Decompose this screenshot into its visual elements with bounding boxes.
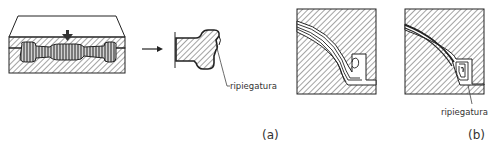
- annotation-ripiegatura-b: ripiegatura: [441, 107, 488, 117]
- caption-b: (b): [468, 128, 485, 142]
- flash-detail: [175, 30, 230, 86]
- right-arrow-icon: [142, 46, 163, 52]
- die-section-before: [297, 9, 376, 94]
- diagram-canvas: ripiegatura (a) ripiegatura (b): [0, 0, 490, 163]
- forging-die: [9, 16, 125, 73]
- caption-a: (a): [262, 128, 279, 142]
- die-section-after: [405, 9, 484, 104]
- annotation-ripiegatura-a: ripiegatura: [230, 81, 277, 91]
